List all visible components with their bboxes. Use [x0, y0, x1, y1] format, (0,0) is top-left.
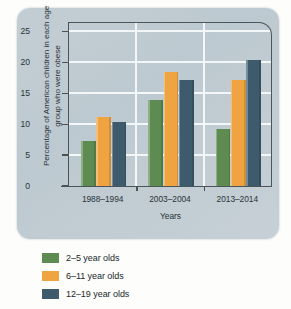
bar — [96, 117, 111, 186]
legend-swatch — [42, 289, 59, 299]
y-tick-label: 15 — [0, 88, 30, 98]
chart-card: Percentage of American children in each … — [17, 8, 279, 239]
y-tick-label: 0 — [0, 181, 30, 191]
bar — [231, 80, 246, 186]
legend-item[interactable]: 6–11 year olds — [42, 268, 212, 284]
y-axis-line — [68, 22, 69, 187]
plot-inner — [69, 22, 271, 186]
y-tick-mark — [62, 62, 68, 63]
bar — [148, 100, 163, 186]
plot-area — [69, 22, 271, 186]
gridline-horizontal — [69, 61, 271, 63]
y-tick-label: 5 — [0, 150, 30, 160]
y-tick-mark — [62, 93, 68, 94]
x-axis-title: Years — [69, 211, 272, 221]
y-tick-label: 10 — [0, 119, 30, 129]
legend-label: 2–5 year olds — [66, 253, 119, 263]
bar — [179, 80, 194, 186]
y-tick-mark — [62, 185, 68, 186]
gridline-vertical — [203, 22, 205, 186]
x-tick-mark — [204, 186, 205, 191]
x-tick-label: 2003–2004 — [135, 194, 205, 204]
bar — [81, 141, 96, 186]
x-tick-mark — [136, 186, 137, 191]
y-tick-label: 20 — [0, 57, 30, 67]
legend-label: 6–11 year olds — [66, 271, 124, 281]
chart-legend: 2–5 year olds6–11 year olds12–19 year ol… — [42, 250, 212, 304]
bar — [164, 72, 179, 186]
legend-swatch — [42, 253, 59, 263]
gridline-horizontal — [69, 30, 271, 32]
x-tick-label: 1988–1994 — [68, 194, 138, 204]
y-tick-label: 25 — [0, 26, 30, 36]
x-axis-line — [61, 186, 272, 187]
gridline-vertical — [135, 22, 137, 186]
bar — [112, 122, 127, 186]
legend-label: 12–19 year olds — [66, 289, 129, 299]
legend-swatch — [42, 271, 59, 281]
legend-item[interactable]: 2–5 year olds — [42, 250, 212, 266]
bar — [246, 60, 261, 186]
x-tick-label: 2013–2014 — [202, 194, 272, 204]
legend-item[interactable]: 12–19 year olds — [42, 286, 212, 302]
y-tick-mark — [62, 154, 68, 155]
bar — [216, 129, 231, 186]
y-tick-mark — [62, 124, 68, 125]
y-tick-mark — [62, 31, 68, 32]
y-axis-title: Percentage of American children in each … — [35, 3, 71, 169]
